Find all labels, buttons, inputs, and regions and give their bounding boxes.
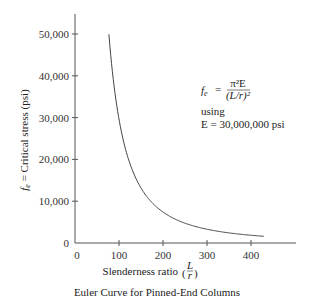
svg-text:fe: fe [201,84,208,98]
y-tick-label: 20,000 [39,153,70,165]
x-tick-label: 0 [74,249,80,261]
svg-text:(L/r)²: (L/r)² [226,89,251,102]
svg-text:(: ( [182,267,186,280]
svg-text:Slenderness ratio: Slenderness ratio [103,265,179,277]
euler-curve-line [109,34,264,236]
svg-text:E = 30,000,000 psi: E = 30,000,000 psi [201,118,285,130]
y-axis-title: fe = Critical stress (psi) [18,89,32,191]
y-tick-label: 50,000 [39,28,70,40]
svg-text:): ) [194,267,198,280]
svg-text:π²E: π²E [230,77,246,89]
x-axis-title: Slenderness ratio ( L r ) [103,259,198,281]
y-tick-label: 0 [64,237,70,249]
x-tick-label: 100 [111,249,128,261]
euler-curve-chart: 010,00020,00030,00040,00050,000 01002003… [0,0,314,305]
svg-text:r: r [188,269,193,281]
svg-text:=: = [215,83,221,95]
svg-text:using: using [201,105,225,117]
y-tick-label: 40,000 [39,70,70,82]
x-tick-label: 200 [155,249,172,261]
y-tick-label: 10,000 [39,195,70,207]
x-tick-label: 400 [243,249,260,261]
x-tick-label: 300 [199,249,216,261]
y-axis-ticks: 010,00020,00030,00040,00050,000 [39,28,78,249]
chart-caption: Euler Curve for Pinned-End Columns [0,286,314,298]
y-tick-label: 30,000 [39,112,70,124]
formula-annotation: fe = π²E (L/r)² using E = 30,000,000 psi [201,77,285,130]
